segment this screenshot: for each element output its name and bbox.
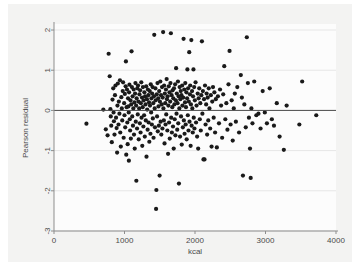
x-tick-label: 1000 — [116, 236, 134, 245]
data-point — [209, 93, 213, 97]
data-point — [166, 152, 170, 156]
data-point — [272, 124, 276, 128]
data-point — [194, 120, 198, 124]
data-point — [127, 159, 131, 163]
data-point — [136, 112, 140, 116]
data-point — [216, 94, 220, 98]
data-point — [132, 87, 136, 91]
data-point — [187, 50, 191, 54]
data-point — [177, 106, 181, 110]
data-point — [192, 85, 196, 89]
x-axis-title: kcal — [188, 247, 202, 256]
data-point — [268, 86, 272, 90]
data-point — [249, 176, 253, 180]
data-point — [169, 31, 173, 35]
data-point — [132, 132, 136, 136]
data-point — [120, 118, 124, 122]
data-point — [261, 89, 265, 93]
data-point — [120, 106, 124, 110]
y-tick-label: -3 — [43, 227, 52, 235]
data-point — [158, 79, 162, 83]
data-point — [140, 144, 144, 148]
data-point — [202, 157, 206, 161]
data-point — [138, 121, 142, 125]
data-point — [250, 121, 254, 125]
data-point — [226, 82, 230, 86]
data-point — [166, 94, 170, 98]
data-point — [164, 87, 168, 91]
data-point — [113, 93, 117, 97]
data-point — [182, 132, 186, 136]
data-point — [137, 137, 141, 141]
data-point — [239, 73, 243, 77]
data-point — [163, 122, 167, 126]
data-point — [166, 103, 170, 107]
data-point — [217, 121, 221, 125]
data-point — [207, 106, 211, 110]
data-point — [131, 124, 135, 128]
data-point — [142, 90, 146, 94]
data-point — [171, 124, 175, 128]
data-point — [285, 103, 289, 107]
data-point — [198, 101, 202, 105]
data-point — [225, 128, 229, 132]
data-point — [189, 102, 193, 106]
data-point — [191, 67, 195, 71]
data-point — [129, 49, 133, 53]
data-point — [221, 92, 225, 96]
data-point — [111, 110, 115, 114]
data-point — [192, 126, 196, 130]
data-point — [202, 97, 206, 101]
data-point — [248, 147, 252, 151]
data-point — [129, 136, 133, 140]
data-point — [176, 79, 180, 83]
data-point — [161, 106, 165, 110]
data-point — [160, 126, 164, 130]
data-point — [297, 122, 301, 126]
data-point — [196, 91, 200, 95]
y-tick-label: 2 — [43, 27, 52, 32]
data-point — [177, 181, 181, 185]
data-point — [114, 116, 118, 120]
data-point — [108, 74, 112, 78]
y-tick-label: -1 — [43, 147, 52, 155]
data-point — [118, 130, 122, 134]
data-point — [224, 101, 228, 105]
data-point — [183, 81, 187, 85]
data-point — [117, 99, 121, 103]
data-point — [145, 108, 149, 112]
data-point — [203, 83, 207, 87]
data-point — [112, 119, 116, 123]
data-point — [168, 136, 172, 140]
x-tick-labels-group: 01000200030004000 — [52, 236, 346, 245]
data-point — [123, 92, 127, 96]
data-point — [149, 110, 153, 114]
data-point — [105, 133, 109, 137]
data-point — [187, 120, 191, 124]
data-point — [153, 106, 157, 110]
data-point — [173, 133, 177, 137]
data-point — [182, 118, 186, 122]
data-point — [258, 126, 262, 130]
data-point — [314, 113, 318, 117]
data-point — [153, 86, 157, 90]
data-points-group — [84, 30, 318, 211]
data-point — [194, 103, 198, 107]
data-point — [110, 140, 114, 144]
data-point — [115, 126, 119, 130]
data-point — [179, 114, 183, 118]
x-tick-label: 4000 — [327, 236, 345, 245]
data-point — [159, 132, 163, 136]
data-point — [141, 124, 145, 128]
data-point — [180, 142, 184, 146]
data-point — [265, 121, 269, 125]
data-point — [152, 33, 156, 37]
data-point — [127, 90, 131, 94]
data-point — [162, 83, 166, 87]
data-point — [121, 80, 125, 84]
data-point — [168, 99, 172, 103]
data-point — [205, 91, 209, 95]
data-point — [192, 116, 196, 120]
data-point — [184, 105, 188, 109]
data-point — [229, 122, 233, 126]
